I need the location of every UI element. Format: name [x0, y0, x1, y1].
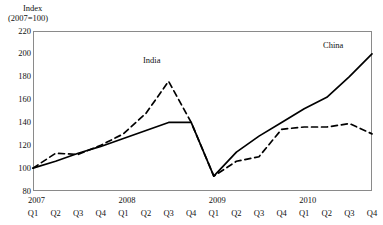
x-axis-quarter-label: Q2: [46, 209, 66, 218]
x-axis-quarter-label: Q4: [91, 209, 111, 218]
x-axis-year-label: 2010: [299, 196, 316, 205]
x-axis-quarter-label: Q4: [272, 209, 292, 218]
x-axis-quarter-label: Q3: [68, 209, 88, 218]
x-axis-year-label: 2008: [118, 196, 135, 205]
y-axis-tick: 80: [0, 187, 31, 196]
x-axis-quarter-label: Q3: [159, 209, 179, 218]
y-axis-tick: 200: [0, 49, 31, 58]
plot-frame: [33, 31, 372, 191]
y-axis-title-line2: (2007=100): [8, 13, 48, 24]
x-axis-quarter-label: Q4: [362, 209, 382, 218]
y-axis-tick: 180: [0, 72, 31, 81]
y-axis-tick: 120: [0, 141, 31, 150]
y-axis-tick: 220: [0, 27, 31, 36]
x-axis-quarter-label: Q1: [113, 209, 133, 218]
chart-container: Index (2007=100) 22020018016014012010080…: [0, 0, 383, 225]
y-axis-tick: 100: [0, 164, 31, 173]
y-axis-tick-label: 140: [5, 118, 31, 127]
x-axis-year-label: 2007: [28, 196, 45, 205]
x-axis-quarter-label: Q3: [339, 209, 359, 218]
y-axis-tick-label: 80: [5, 187, 31, 196]
x-axis-quarter-label: Q4: [181, 209, 201, 218]
y-axis-title-line1: Index: [23, 3, 42, 14]
x-axis-quarter-label: Q1: [23, 209, 43, 218]
x-axis-quarter-label: Q1: [294, 209, 314, 218]
y-axis-tick-label: 120: [5, 141, 31, 150]
x-axis-quarter-label: Q2: [136, 209, 156, 218]
y-axis-tick: 160: [0, 95, 31, 104]
x-axis-year-label: 2009: [209, 196, 226, 205]
x-axis-quarter-label: Q1: [204, 209, 224, 218]
y-axis-tick-label: 180: [5, 72, 31, 81]
x-axis-quarter-label: Q3: [249, 209, 269, 218]
x-axis-quarter-label: Q2: [226, 209, 246, 218]
y-axis-tick-label: 220: [5, 27, 31, 36]
y-axis-tick-label: 160: [5, 95, 31, 104]
y-axis-tick: 140: [0, 118, 31, 127]
x-axis-quarter-label: Q2: [317, 209, 337, 218]
y-axis-tick-label: 200: [5, 49, 31, 58]
y-axis-tick-label: 100: [5, 164, 31, 173]
